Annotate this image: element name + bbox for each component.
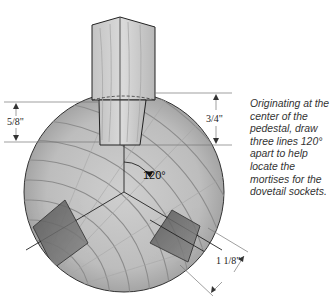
instruction-note: Originating at the center of the pedesta… (250, 98, 331, 199)
angle-label: 120° (143, 169, 166, 181)
dimension-left-label: 5/8" (7, 116, 24, 127)
dimension-socket-label: 1 1/8" (216, 255, 240, 266)
dimension-right-label: 3/4" (206, 113, 223, 124)
